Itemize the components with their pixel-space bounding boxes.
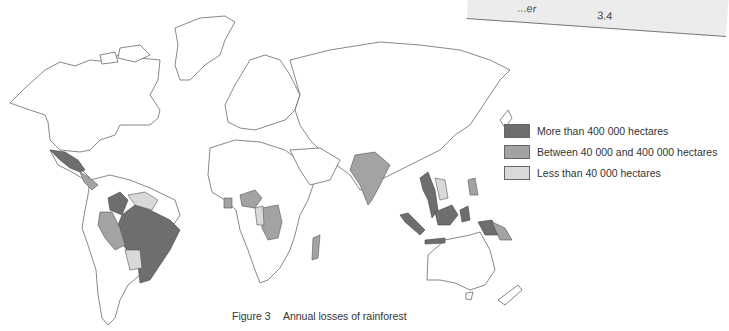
north-america [10, 55, 160, 152]
legend-swatch-light [504, 166, 530, 180]
map-legend: More than 400 000 hectares Between 40 00… [504, 121, 717, 184]
legend-label: More than 400 000 hectares [537, 125, 668, 137]
legend-label: Less than 40 000 hectares [537, 167, 661, 179]
borneo [435, 205, 458, 225]
greenland [175, 16, 235, 80]
legend-item-low: Less than 40 000 hectares [504, 163, 717, 183]
ivory-coast [224, 198, 232, 208]
legend-item-medium: Between 40 000 and 400 000 hectares [504, 142, 717, 162]
legend-swatch-medium [504, 145, 530, 159]
sulawesi [460, 206, 470, 222]
laos-vietnam [435, 178, 448, 200]
europe [225, 55, 300, 130]
india [350, 152, 390, 205]
figure-number: Figure 3 [232, 310, 271, 322]
java [425, 238, 445, 244]
madagascar [312, 235, 320, 260]
legend-swatch-dark [504, 124, 530, 138]
figure-title: Annual losses of rainforest [283, 310, 407, 322]
legend-item-high: More than 400 000 hectares [504, 121, 717, 141]
sumatra [400, 213, 425, 235]
legend-label: Between 40 000 and 400 000 hectares [537, 146, 717, 158]
figure-caption: Figure 3 Annual losses of rainforest [232, 310, 407, 322]
philippines [468, 178, 478, 195]
